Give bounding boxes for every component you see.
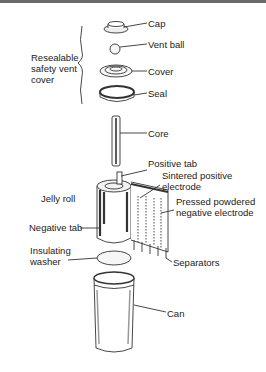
positive-tab-leader	[121, 170, 147, 176]
insulating-washer-part	[97, 251, 131, 265]
core-part	[112, 116, 120, 166]
negative-tab-label: Negative tab	[29, 222, 82, 233]
vent-ball-label: Vent ball	[148, 39, 184, 50]
vent-ball-part	[110, 44, 120, 54]
sintered-positive-electrode-label: Sintered positive electrode	[162, 170, 232, 192]
seal-label: Seal	[148, 88, 167, 99]
jelly-roll-label: Jelly roll	[41, 193, 75, 204]
cover-part	[100, 65, 132, 77]
washer-leader	[68, 258, 97, 260]
core-label: Core	[148, 128, 169, 139]
can-leader	[134, 305, 166, 312]
separators-leader	[166, 258, 172, 262]
insulating-washer-label: Insulating washer	[30, 245, 71, 267]
can-part	[94, 272, 134, 352]
can-label: Can	[167, 308, 184, 319]
jelly-roll-part	[97, 172, 168, 258]
seal-part	[100, 86, 134, 102]
pressed-powdered-negative-electrode-label: Pressed powdered negative electrode	[176, 196, 255, 218]
seal-leader	[134, 93, 147, 95]
cover-label: Cover	[148, 66, 173, 77]
vent-ball-leader	[120, 44, 147, 47]
resealable-safety-vent-cover-label: Resealable safety vent cover	[31, 52, 79, 85]
cap-leader	[124, 23, 147, 27]
separators-label: Separators	[173, 257, 219, 268]
positive-tab-label: Positive tab	[148, 158, 197, 169]
group-brace	[78, 26, 83, 104]
cap-label: Cap	[148, 18, 165, 29]
